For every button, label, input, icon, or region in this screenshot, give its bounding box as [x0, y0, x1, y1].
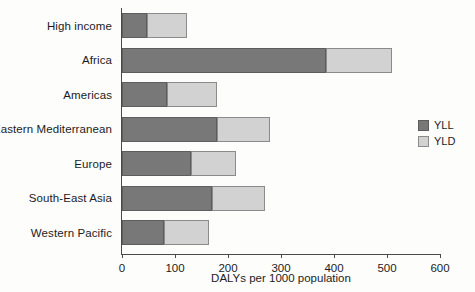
bar-segment-yld	[212, 186, 265, 211]
category-label: Western Pacific	[31, 227, 112, 239]
bar-segment-yll	[122, 117, 217, 142]
x-axis-tick-mark	[122, 254, 123, 258]
category-label: South-East Asia	[29, 192, 112, 204]
bar-row	[122, 220, 440, 245]
bar-segment-yll	[122, 220, 164, 245]
category-label: Eastern Mediterranean	[0, 123, 112, 135]
chart-legend: YLLYLD	[418, 118, 455, 150]
legend-swatch-yll-icon	[418, 120, 429, 131]
bar-segment-yld	[164, 220, 209, 245]
category-label: Europe	[74, 158, 112, 170]
x-axis-tick-mark	[175, 254, 176, 258]
x-axis-tick-mark	[440, 254, 441, 258]
bar-segment-yll	[122, 151, 191, 176]
bar-row	[122, 117, 440, 142]
bar-segment-yld	[191, 151, 236, 176]
legend-label: YLL	[434, 119, 454, 131]
bar-segment-yld	[217, 117, 270, 142]
legend-item-yld[interactable]: YLD	[418, 134, 455, 148]
category-label: High income	[47, 20, 112, 32]
x-axis-title: DALYs per 1000 population	[122, 272, 440, 284]
bar-segment-yll	[122, 186, 212, 211]
dalys-bar-chart: High incomeAfricaAmericasEastern Mediter…	[0, 0, 475, 292]
category-label: Americas	[63, 89, 112, 101]
x-axis-tick-mark	[334, 254, 335, 258]
x-axis-tick-mark	[281, 254, 282, 258]
x-axis-tick-mark	[228, 254, 229, 258]
bar-segment-yld	[326, 48, 392, 73]
bar-row	[122, 151, 440, 176]
bar-row	[122, 48, 440, 73]
bar-segment-yll	[122, 48, 326, 73]
category-axis-labels: High incomeAfricaAmericasEastern Mediter…	[0, 8, 117, 254]
bar-segment-yll	[122, 13, 147, 38]
x-axis-tick-mark	[387, 254, 388, 258]
bar-segment-yll	[122, 82, 167, 107]
legend-label: YLD	[434, 135, 455, 147]
legend-item-yll[interactable]: YLL	[418, 118, 455, 132]
category-label: Africa	[82, 54, 112, 66]
plot-area: 0100200300400500600	[122, 8, 440, 254]
bar-row	[122, 186, 440, 211]
legend-swatch-yld-icon	[418, 136, 429, 147]
bar-row	[122, 82, 440, 107]
bar-segment-yld	[167, 82, 217, 107]
bar-row	[122, 13, 440, 38]
bar-segment-yld	[147, 13, 187, 38]
